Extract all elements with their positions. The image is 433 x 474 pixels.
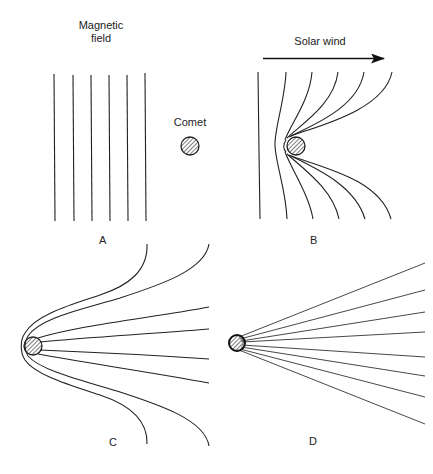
panel-a: [54, 73, 199, 221]
magnetic-field-lines: [54, 73, 146, 221]
panel-b: [258, 59, 392, 220]
panel-c: [21, 244, 209, 446]
comet-icon: [287, 137, 305, 155]
magnetic-field-label: Magnetic field: [68, 19, 134, 45]
comet-icon: [24, 337, 42, 355]
diagram-svg: [0, 0, 433, 474]
panel-label-d: D: [309, 435, 317, 447]
draped-field-lines: [258, 72, 392, 219]
panel-d: [229, 263, 425, 424]
magnetic-field-label-line2: field: [68, 32, 134, 45]
comet-icon: [181, 137, 199, 155]
panel-label-c: C: [109, 436, 117, 448]
comet-label: Comet: [168, 116, 212, 129]
magnetic-field-label-line1: Magnetic: [68, 19, 134, 32]
tail-field-lines: [239, 263, 425, 424]
comet-icon: [229, 335, 245, 351]
wrapped-field-lines: [21, 244, 209, 446]
panel-label-a: A: [99, 234, 106, 246]
diagram-canvas: Magnetic field Comet Solar wind A B C D: [0, 0, 433, 474]
panel-label-b: B: [310, 234, 317, 246]
solar-wind-label: Solar wind: [285, 35, 355, 48]
